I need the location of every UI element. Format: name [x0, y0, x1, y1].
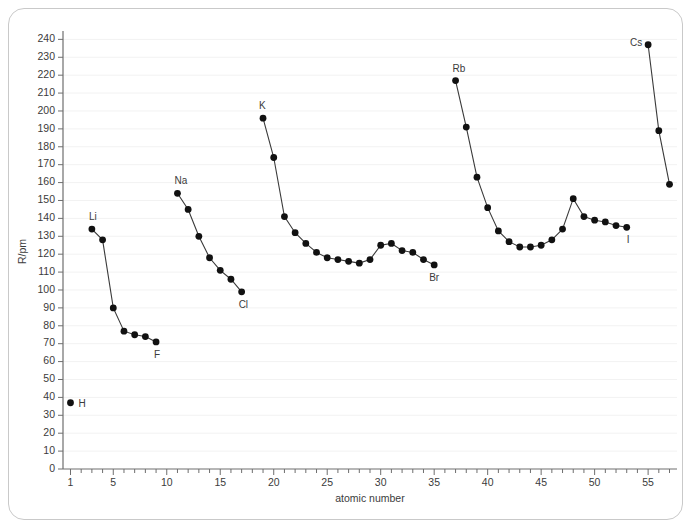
data-point — [420, 256, 427, 263]
data-point — [174, 190, 181, 197]
data-point — [570, 195, 577, 202]
x-tick-label: 5 — [110, 476, 116, 488]
y-tick-label: 160 — [37, 175, 55, 187]
radius-vs-atomic-number-chart: 0102030405060708090100110120130140150160… — [9, 9, 684, 521]
y-tick-label: 230 — [37, 50, 55, 62]
data-point — [345, 258, 352, 265]
data-point — [506, 238, 513, 245]
data-point — [431, 262, 438, 269]
data-point — [559, 226, 566, 233]
data-point — [388, 240, 395, 247]
data-point — [292, 229, 299, 236]
data-point — [463, 124, 470, 131]
data-point — [623, 224, 630, 231]
x-tick-label: 35 — [428, 476, 440, 488]
data-point — [484, 204, 491, 211]
data-point — [281, 213, 288, 220]
x-tick-label: 15 — [214, 476, 226, 488]
y-tick-label: 120 — [37, 247, 55, 259]
data-point — [495, 228, 502, 235]
y-axis: 0102030405060708090100110120130140150160… — [37, 31, 63, 474]
data-point — [142, 333, 149, 340]
y-tick-label: 220 — [37, 68, 55, 80]
x-tick-label: 40 — [482, 476, 494, 488]
data-point — [591, 217, 598, 224]
y-tick-label: 0 — [49, 462, 55, 474]
x-tick-label: 10 — [161, 476, 173, 488]
y-tick-label: 200 — [37, 104, 55, 116]
x-tick-label: 1 — [68, 476, 74, 488]
data-point — [666, 181, 673, 188]
y-tick-label: 150 — [37, 193, 55, 205]
y-tick-label: 140 — [37, 211, 55, 223]
data-point — [185, 206, 192, 213]
data-point — [527, 244, 534, 251]
data-point — [121, 328, 128, 335]
data-point — [88, 226, 95, 233]
x-axis: 1510152025303540455055 — [63, 469, 677, 488]
data-point — [217, 267, 224, 274]
figure-frame: 0102030405060708090100110120130140150160… — [8, 8, 683, 520]
y-tick-label: 50 — [43, 372, 55, 384]
data-point — [356, 260, 363, 267]
data-point — [645, 41, 652, 48]
y-tick-label: 110 — [38, 265, 55, 277]
point-label-cl: Cl — [239, 299, 248, 310]
y-tick-label: 240 — [37, 32, 55, 44]
y-tick-label: 210 — [37, 86, 55, 98]
data-point — [313, 249, 320, 256]
series-line-period-6 — [648, 45, 669, 185]
y-tick-label: 190 — [37, 122, 55, 134]
data-point — [67, 399, 74, 406]
x-tick-label: 50 — [589, 476, 601, 488]
data-point — [613, 222, 620, 229]
x-tick-label: 20 — [268, 476, 280, 488]
point-label-f: F — [154, 349, 160, 360]
data-point — [131, 331, 138, 338]
y-tick-label: 130 — [37, 229, 55, 241]
y-tick-label: 20 — [43, 426, 55, 438]
data-point — [302, 240, 309, 247]
x-tick-label: 45 — [535, 476, 547, 488]
data-point — [110, 304, 117, 311]
y-tick-label: 170 — [37, 157, 55, 169]
y-tick-label: 10 — [43, 444, 55, 456]
data-point — [548, 236, 555, 243]
data-point — [99, 236, 106, 243]
y-tick-label: 30 — [43, 408, 55, 420]
point-label-li: Li — [89, 211, 97, 222]
data-point — [260, 115, 267, 122]
data-point — [399, 247, 406, 254]
x-tick-label: 25 — [321, 476, 333, 488]
point-label-k: K — [259, 100, 266, 111]
data-point — [367, 256, 374, 263]
data-point — [228, 276, 235, 283]
data-point — [324, 254, 331, 261]
data-point — [153, 339, 160, 346]
data-point — [538, 242, 545, 249]
series-line-period-4 — [263, 118, 434, 265]
series-line-period-2 — [92, 229, 156, 342]
point-label-i: I — [627, 234, 630, 245]
gridlines-layer — [63, 39, 677, 451]
y-tick-label: 100 — [37, 283, 55, 295]
point-label-br: Br — [429, 272, 440, 283]
data-point — [474, 174, 481, 181]
data-point — [238, 288, 245, 295]
y-tick-label: 90 — [43, 301, 55, 313]
x-tick-label: 55 — [642, 476, 654, 488]
y-axis-title: R/pm — [16, 239, 28, 264]
data-point — [195, 233, 202, 240]
data-point — [270, 154, 277, 161]
point-label-cs: Cs — [630, 37, 642, 48]
x-tick-label: 30 — [375, 476, 387, 488]
x-axis-title: atomic number — [335, 492, 405, 504]
data-point — [516, 244, 523, 251]
point-label-h: H — [78, 398, 85, 409]
y-tick-label: 40 — [43, 390, 55, 402]
data-point — [581, 213, 588, 220]
data-point — [655, 127, 662, 134]
point-labels-layer: HLiFNaClKBrRbICs — [78, 37, 642, 409]
data-point — [409, 249, 416, 256]
y-tick-label: 80 — [43, 319, 55, 331]
